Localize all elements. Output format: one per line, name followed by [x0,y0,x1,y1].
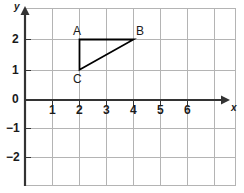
y-tick-label-2: 2 [12,33,19,45]
coordinate-grid-figure: 1 2 3 4 5 6 2 1 −1 −2 0 x y A B C [0,0,244,193]
y-tick-label-minus-1: −1 [6,122,20,134]
vertex-label-c: C [73,73,82,85]
vertex-label-a: A [73,25,81,37]
x-tick-label-2: 2 [76,104,83,116]
x-tick-label-6: 6 [184,104,191,116]
grid-lines [26,9,236,186]
origin-label: 0 [12,93,19,105]
x-axis-arrowhead [221,96,230,105]
x-tick-label-3: 3 [103,104,110,116]
x-axis-label: x [231,103,237,113]
x-tick-label-5: 5 [157,104,164,116]
y-axis-arrowhead [21,6,30,15]
y-tick-label-1: 1 [12,64,19,76]
y-tick-label-minus-2: −2 [6,151,20,163]
vertex-label-b: B [136,25,144,37]
plot-canvas [0,0,244,193]
x-tick-label-4: 4 [130,104,137,116]
x-tick-label-1: 1 [49,104,56,116]
y-axis-label: y [14,2,20,12]
